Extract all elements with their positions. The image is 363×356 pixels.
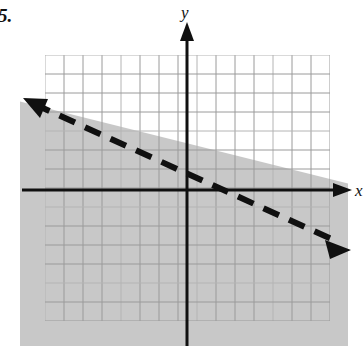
inequality-graph: 5. y x xyxy=(0,0,363,356)
y-axis-label: y xyxy=(179,3,189,22)
x-axis-label: x xyxy=(354,181,363,200)
figure-container: 5. y x xyxy=(0,0,363,356)
problem-number-label: 5. xyxy=(0,5,12,26)
